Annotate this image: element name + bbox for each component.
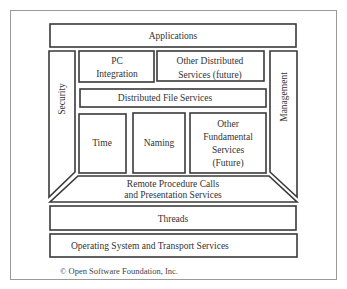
- other-distributed-label-line1: Other Distributed: [177, 56, 244, 66]
- naming-label: Naming: [144, 138, 175, 148]
- threads-label: Threads: [158, 214, 189, 224]
- security-layer: Security: [49, 51, 75, 197]
- rpc-label-line2: and Presentation Services: [124, 190, 222, 200]
- rpc-presentation-layer: Remote Procedure Calls and Presentation …: [50, 176, 297, 202]
- rpc-label-line1: Remote Procedure Calls: [127, 179, 220, 189]
- management-layer: Management: [270, 51, 297, 197]
- time-layer: Time: [79, 114, 126, 173]
- security-label: Security: [57, 83, 67, 115]
- os-transport-layer: Operating System and Transport Services: [50, 234, 297, 257]
- other-fundamental-label-line3: Services: [212, 145, 244, 155]
- applications-layer: Applications: [50, 24, 296, 47]
- distributed-file-services-label: Distributed File Services: [118, 93, 213, 103]
- other-fundamental-label-line2: Fundamental: [203, 132, 253, 142]
- pc-integration-label-line1: PC: [111, 56, 123, 66]
- other-distributed-services-layer: Other Distributed Services (future): [157, 51, 264, 81]
- distributed-file-services-layer: Distributed File Services: [80, 89, 266, 107]
- os-transport-label: Operating System and Transport Services: [71, 241, 229, 251]
- threads-layer: Threads: [50, 206, 296, 230]
- time-label: Time: [92, 138, 112, 148]
- other-fundamental-label-line4: (Future): [212, 158, 243, 169]
- management-label: Management: [279, 72, 289, 122]
- naming-layer: Naming: [133, 113, 185, 173]
- pc-integration-label-line2: Integration: [96, 69, 138, 79]
- dce-architecture-diagram: Applications Security Management PC Inte…: [0, 0, 347, 289]
- applications-label: Applications: [149, 31, 198, 41]
- other-fundamental-label-line1: Other: [217, 119, 239, 129]
- pc-integration-layer: PC Integration: [79, 51, 154, 82]
- other-distributed-label-line2: Services (future): [178, 70, 242, 81]
- other-fundamental-services-layer: Other Fundamental Services (Future): [190, 113, 266, 173]
- copyright-notice: © Open Software Foundation, Inc.: [60, 266, 178, 276]
